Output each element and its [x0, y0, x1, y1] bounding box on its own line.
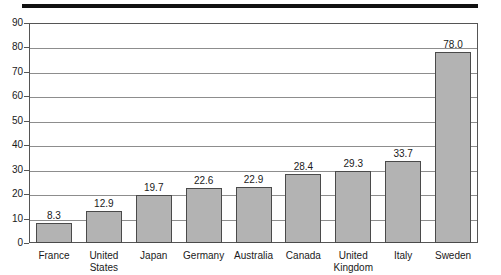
bar — [136, 195, 172, 243]
y-axis-tick-label: 10 — [0, 214, 23, 224]
y-axis-tick-label: 80 — [0, 42, 23, 52]
bar — [36, 223, 72, 243]
bar — [435, 52, 471, 243]
y-axis-tick-label: 70 — [0, 67, 23, 77]
y-axis-tick — [24, 243, 29, 244]
x-axis-category-label: Sweden — [423, 250, 483, 262]
y-axis-tick-label: 50 — [0, 116, 23, 126]
bar — [335, 171, 371, 243]
bar-value-label: 78.0 — [425, 39, 481, 50]
bar — [236, 187, 272, 243]
bar-value-label: 12.9 — [76, 198, 132, 209]
y-axis-tick-label: 30 — [0, 165, 23, 175]
bar — [285, 174, 321, 243]
top-divider-rule — [22, 4, 478, 8]
x-axis-category-label-line: Kingdom — [323, 262, 383, 274]
x-axis-category-label-line: Sweden — [423, 250, 483, 262]
bar-value-label: 22.9 — [226, 174, 282, 185]
bar-value-label: 8.3 — [26, 210, 82, 221]
bar-value-label: 22.6 — [176, 175, 232, 186]
bar-value-label: 19.7 — [126, 182, 182, 193]
bar — [186, 188, 222, 243]
bar — [86, 211, 122, 243]
bar-value-label: 33.7 — [375, 148, 431, 159]
y-axis-tick-label: 60 — [0, 91, 23, 101]
bar — [385, 161, 421, 243]
bar-value-label: 28.4 — [275, 161, 331, 172]
y-axis-tick-label: 20 — [0, 189, 23, 199]
bar-chart-figure: 9080706050403020100 8.312.919.722.622.92… — [0, 0, 501, 275]
y-axis-tick-label: 0 — [0, 238, 23, 248]
bar-value-label: 29.3 — [325, 158, 381, 169]
y-axis-tick-label: 40 — [0, 140, 23, 150]
x-axis-category-label-line: States — [74, 262, 134, 274]
bars-group — [29, 23, 478, 243]
y-axis-tick-label: 90 — [0, 18, 23, 28]
